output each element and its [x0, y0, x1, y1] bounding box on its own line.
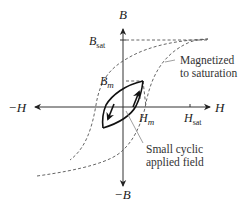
neg-b-axis-label: −B: [114, 187, 131, 202]
h-sat-label: Hsat: [183, 111, 202, 127]
neg-h-axis-label: −H: [8, 100, 27, 115]
cyclic-annotation-line1: Small cyclic: [146, 143, 203, 156]
saturation-leader: [165, 60, 175, 62]
b-sat-label: Bsat: [89, 34, 106, 50]
saturation-annotation-line1: Magnetized: [180, 54, 235, 67]
hysteresis-diagram: B −B H −H Bsat Bm Hm Hsat Magnetized to …: [0, 0, 249, 202]
b-axis-label: B: [119, 7, 127, 22]
cyclic-annotation-line2: applied field: [146, 156, 204, 169]
saturation-annotation-line2: to saturation: [180, 67, 237, 79]
b-m-label: Bm: [100, 74, 114, 90]
arrow-down-icon: [108, 104, 114, 119]
h-axis-label: H: [214, 100, 225, 115]
h-m-dashed-line: [143, 81, 146, 107]
h-m-label: Hm: [138, 111, 155, 127]
